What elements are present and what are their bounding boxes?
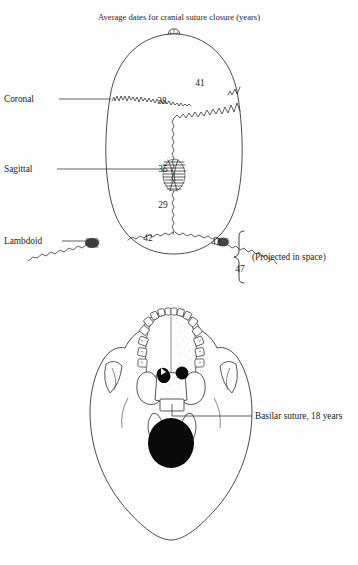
lambdoid-left-node xyxy=(85,238,99,248)
value-lambda-center: 42 xyxy=(143,233,153,243)
basal-view-panel: Basilar suture, 18 years xyxy=(90,308,343,540)
projected-in-space-note: (Projected in space) xyxy=(252,252,326,263)
label-coronal: Coronal xyxy=(4,94,34,104)
foramen-magnum xyxy=(148,418,194,468)
value-coronal-lateral-right: 41 xyxy=(195,78,205,88)
value-lambdoid-right-outer: 47 xyxy=(235,264,245,274)
value-coronal-mid: 38 xyxy=(157,96,167,106)
figure-page: Average dates for cranial suture closure… xyxy=(0,0,358,565)
projected-brace xyxy=(234,231,244,283)
superior-view-panel: Coronal Sagittal Lambdoid 41 38 35 29 42… xyxy=(4,29,326,283)
label-sagittal: Sagittal xyxy=(4,164,33,174)
cranial-vault-outline xyxy=(106,34,242,254)
figure-title: Average dates for cranial suture closure… xyxy=(98,12,260,22)
foramen-ovale-right xyxy=(176,367,189,380)
value-sagittal-posterior: 29 xyxy=(158,200,168,210)
cranial-suture-figure: Average dates for cranial suture closure… xyxy=(0,0,358,565)
label-lambdoid: Lambdoid xyxy=(4,236,43,246)
value-sagittal-mid: 35 xyxy=(158,164,168,174)
value-lambdoid-right: 42 xyxy=(211,237,221,247)
lambdoid-suture-left-projected xyxy=(28,245,86,261)
callout-basilar-suture: Basilar suture, 18 years xyxy=(255,411,343,421)
